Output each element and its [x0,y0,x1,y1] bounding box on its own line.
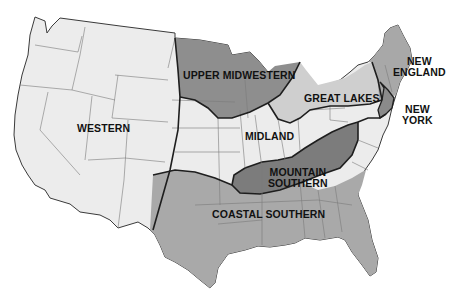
label-new-england-line2: ENGLAND [393,67,446,78]
label-coastal-southern: COASTAL SOUTHERN [212,209,325,220]
label-upper-midwestern: UPPER MIDWESTERN [183,70,295,81]
label-new-england: NEW ENGLAND [393,56,446,78]
label-mountain-southern: MOUNTAIN SOUTHERN [268,167,328,189]
label-great-lakes: GREAT LAKES [304,93,380,104]
label-midland: MIDLAND [245,131,294,142]
label-new-york: NEW YORK [402,104,433,126]
label-mountain-southern-line2: SOUTHERN [268,178,328,189]
dialect-map: WESTERN UPPER MIDWESTERN GREAT LAKES NEW… [0,0,453,297]
label-new-york-line2: YORK [402,115,433,126]
us-map-svg [0,0,453,297]
label-western: WESTERN [77,123,130,134]
